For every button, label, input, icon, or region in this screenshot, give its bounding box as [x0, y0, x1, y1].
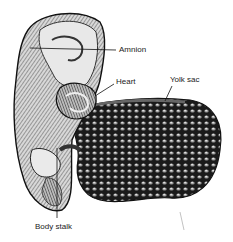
label-body-stalk: Body stalk — [35, 223, 72, 231]
label-amnion: Amnion — [119, 46, 146, 54]
leader-unlabeled — [180, 212, 184, 230]
embryo-illustration — [0, 0, 233, 242]
label-yolk-sac: Yolk sac — [170, 76, 200, 84]
yolk-sac-shape — [70, 99, 221, 202]
label-heart: Heart — [116, 78, 136, 86]
